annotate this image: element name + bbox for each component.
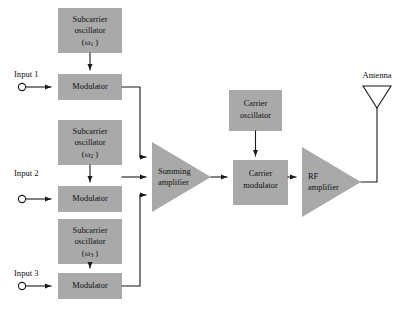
input-1-terminal — [18, 83, 25, 90]
subcarrier-oscillator-1-line2: oscillator — [74, 26, 105, 35]
summing-amplifier-line2: amplifier — [158, 178, 189, 187]
input-3-terminal — [18, 282, 25, 289]
antenna-icon — [363, 86, 391, 108]
input-1-label: Input 1 — [14, 69, 39, 79]
summing-amplifier-line1: Summing — [158, 167, 191, 176]
antenna-label: Antenna — [362, 70, 391, 80]
carrier-modulator-line1: Carrier — [249, 169, 273, 178]
subcarrier-oscillator-3-symbol: (ω3 ) — [82, 249, 99, 259]
subcarrier-oscillator-2-line2: oscillator — [74, 138, 105, 147]
carrier-oscillator-line2: oscillator — [240, 111, 271, 120]
subcarrier-oscillator-2-line1: Subcarrier — [73, 127, 108, 136]
modulator-1-label: Modulator — [72, 82, 108, 91]
rf-amplifier-line1: RF — [308, 172, 319, 181]
subcarrier-oscillator-3-line1: Subcarrier — [73, 226, 108, 235]
wire-mod1-to-summing — [122, 87, 140, 157]
subcarrier-oscillator-1-line1: Subcarrier — [73, 15, 108, 24]
modulator-3-label: Modulator — [72, 281, 108, 290]
block-diagram: Subcarrier oscillator (ω1 ) Modulator In… — [0, 0, 410, 314]
carrier-modulator-line2: modulator — [243, 181, 278, 190]
input-2-label: Input 2 — [14, 168, 39, 178]
subcarrier-oscillator-3-line2: oscillator — [74, 237, 105, 246]
subcarrier-oscillator-1-symbol: (ω1 ) — [82, 38, 99, 48]
modulator-2-label: Modulator — [72, 194, 108, 203]
input-2-terminal — [18, 195, 25, 202]
carrier-oscillator-line1: Carrier — [244, 99, 268, 108]
wire-mod3-to-summing — [122, 195, 140, 286]
wire-rf-to-antenna — [361, 108, 377, 182]
rf-amplifier-line2: amplifier — [308, 183, 339, 192]
subcarrier-oscillator-2-symbol: (ω2 ) — [82, 150, 99, 160]
input-3-label: Input 3 — [14, 268, 39, 278]
